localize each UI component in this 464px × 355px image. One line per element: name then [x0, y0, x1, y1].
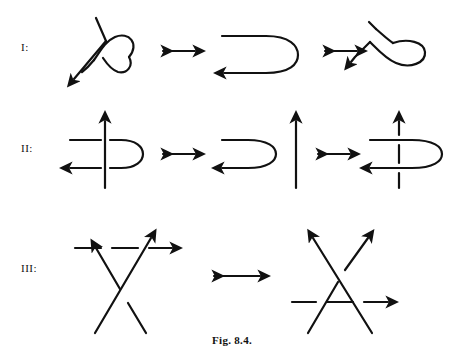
curl2-strand-arrow: [351, 42, 370, 62]
row3b-diagonal-up-right-upper: [345, 238, 368, 270]
diagram-row1-right: [351, 22, 425, 65]
curl-loop-lower: [82, 60, 94, 72]
diagram-row2-middle: [222, 121, 296, 188]
diagram-row2-left: [70, 121, 143, 188]
row-label-II: II:: [21, 142, 33, 154]
row3a-diagonal-up-right: [95, 238, 151, 333]
row2c-u-path: [370, 140, 442, 168]
curl2-tail-upper: [376, 29, 393, 43]
figure-artwork: [0, 0, 464, 355]
curl-loop-bottom: [103, 57, 131, 72]
diagram-row1-middle: [222, 36, 298, 73]
curl2-tail-end: [369, 22, 376, 29]
diagram-row3-left: [75, 238, 172, 333]
diagram-row1-left: [74, 18, 133, 79]
u-turn-path: [222, 36, 298, 73]
curl-strand-upper: [96, 18, 106, 41]
row3b-diagonal-up-left: [313, 238, 372, 333]
row2a-u-right: [110, 140, 143, 168]
figure-caption: Fig. 8.4.: [0, 334, 464, 346]
curl-strand-arrow: [74, 41, 106, 79]
figure-root: I: II: III: Fig. 8.4.: [0, 0, 464, 355]
curl2-loop: [370, 41, 425, 66]
row-label-III: III:: [21, 262, 37, 274]
diagram-row3-right: [292, 238, 388, 333]
row-label-I: I:: [21, 41, 29, 53]
row3a-diagonal-up-left-lower: [128, 303, 146, 333]
row3a-diagonal-up-left-upper: [96, 248, 120, 289]
curl-loop-upper: [94, 35, 133, 60]
row3b-diagonal-up-right-lower: [308, 282, 338, 333]
diagram-row2-right: [370, 121, 442, 188]
row2b-u-path: [222, 140, 276, 168]
